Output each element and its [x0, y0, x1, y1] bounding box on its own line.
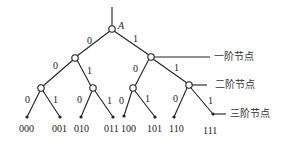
edge-label: 0 [77, 95, 82, 105]
node-l2-2 [130, 85, 136, 91]
edge-label: 0 [133, 64, 138, 74]
leaf-label: 110 [169, 124, 184, 134]
node-l2-1 [90, 85, 96, 91]
second-order-node-label: 二阶节点 [215, 80, 255, 90]
leaf-label: 010 [74, 124, 89, 134]
root-label: A [118, 21, 124, 31]
leaf-label: 001 [52, 124, 67, 134]
edge-label: 0 [119, 96, 124, 106]
first-order-node-label: 一阶节点 [214, 52, 254, 62]
edge-label: 1 [145, 94, 150, 104]
leaf-label: 000 [19, 124, 34, 134]
leaf-label: 100 [121, 124, 136, 134]
edge-label: 0 [87, 36, 92, 46]
edge-label: 1 [107, 96, 112, 106]
edge-label: 0 [53, 61, 58, 71]
node-l2-0 [38, 85, 44, 91]
edge-label: 1 [208, 96, 213, 106]
edge-label: 1 [53, 95, 58, 105]
leaf-label: 011 [104, 124, 119, 134]
node-l1-0 [72, 55, 78, 61]
edge-label: 1 [133, 34, 138, 44]
node-l2-3 [186, 82, 192, 88]
leaf-label: 101 [147, 124, 162, 134]
binary-tree-diagram: A 0 1 0 1 0 1 0 1 0 1 0 1 0 1 000 001 01… [0, 0, 288, 145]
edge-label: 0 [173, 94, 178, 104]
tree-edges [0, 0, 288, 145]
edge-label: 1 [174, 63, 179, 73]
node-l1-1 [148, 54, 154, 60]
leaf-label: 111 [203, 126, 217, 136]
third-order-node-label: 三阶节点 [230, 109, 270, 119]
edge-label: 1 [87, 66, 92, 76]
edge-label: 0 [25, 95, 30, 105]
root-node [109, 26, 115, 32]
